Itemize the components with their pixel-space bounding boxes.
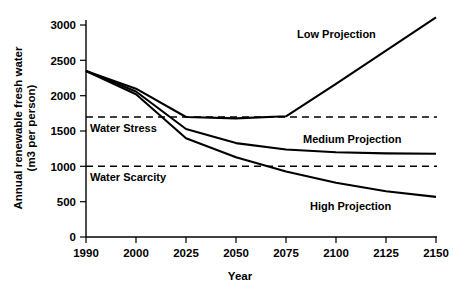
y-tick-label-500: 500	[57, 196, 76, 208]
x-tick-label-1990: 1990	[73, 247, 99, 259]
y-axis-title-line1: Annual renewable fresh water	[12, 46, 24, 209]
x-tick-label-2100: 2100	[323, 247, 349, 259]
y-tick-label-1500: 1500	[50, 125, 76, 137]
series-line-low-projection	[86, 17, 436, 118]
y-tick-label-2500: 2500	[50, 55, 76, 67]
x-tick-label-2150: 2150	[423, 247, 449, 259]
x-tick-label-2075: 2075	[273, 247, 299, 259]
y-tick-label-0: 0	[70, 231, 76, 243]
y-tick-label-1000: 1000	[50, 161, 76, 173]
series-label-high-projection: High Projection	[310, 200, 392, 212]
x-tick-label-2000: 2000	[123, 247, 149, 259]
y-tick-marks	[80, 25, 86, 237]
reference-label-water-stress: Water Stress	[90, 122, 157, 134]
y-axis-title-line2: (m3 per person)	[25, 84, 37, 171]
x-axis-title: Year	[228, 270, 253, 282]
reference-label-water-scarcity: Water Scarcity	[90, 171, 167, 183]
x-tick-marks	[86, 237, 436, 243]
series-label-low-projection: Low Projection	[297, 28, 376, 40]
x-tick-label-2125: 2125	[373, 247, 399, 259]
chart-canvas: 0 500 1000 1500 2000 2500 3000 1990 2000…	[0, 0, 453, 292]
x-tick-label-2050: 2050	[223, 247, 249, 259]
series-label-medium-projection: Medium Projection	[303, 133, 402, 145]
water-projection-chart: 0 500 1000 1500 2000 2500 3000 1990 2000…	[0, 0, 453, 292]
y-tick-label-3000: 3000	[50, 19, 76, 31]
x-tick-label-2025: 2025	[173, 247, 199, 259]
y-tick-label-2000: 2000	[50, 90, 76, 102]
